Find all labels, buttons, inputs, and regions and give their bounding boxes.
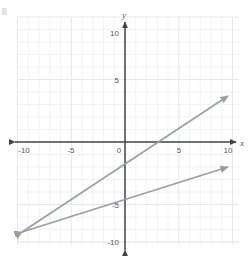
x-tick-label-10: 10 [224,146,233,155]
x-tick-label-neg10: -10 [18,146,30,155]
y-tick-label-10: 10 [110,29,119,38]
y-axis-label: y [121,10,126,20]
grid-major [18,17,240,245]
x-tick-label-5: 5 [177,146,182,155]
y-tick-label-neg10: -10 [107,238,119,247]
grid-minor [18,17,240,245]
origin-label: 0 [117,146,122,155]
graph-canvas: -10 -5 5 10 0 10 5 -5 -10 x y [0,0,250,265]
coordinate-plane-figure: -10 -5 5 10 0 10 5 -5 -10 x y [0,0,250,265]
x-axis-label: x [239,138,244,148]
y-tick-label-5: 5 [115,76,120,85]
y-tick-label-neg5: -5 [112,201,120,210]
x-tick-label-neg5: -5 [67,146,75,155]
